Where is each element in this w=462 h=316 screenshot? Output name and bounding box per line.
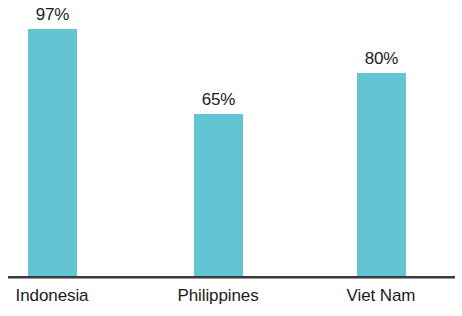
bar-group-1: 65% bbox=[194, 114, 243, 277]
bar-value-label: 80% bbox=[365, 49, 398, 69]
plot-area: 97% 65% 80% bbox=[0, 0, 462, 277]
bar[interactable] bbox=[357, 73, 406, 277]
category-label-indonesia: Indonesia bbox=[16, 286, 89, 306]
bar-chart: 97% 65% 80% Indonesia Philippines Viet N… bbox=[0, 0, 462, 316]
bar[interactable] bbox=[194, 114, 243, 277]
bar-group-2: 80% bbox=[357, 73, 406, 277]
bar-value-label: 97% bbox=[36, 5, 69, 25]
x-axis-line bbox=[8, 276, 455, 278]
bar-value-label: 65% bbox=[202, 90, 235, 110]
category-label-philippines: Philippines bbox=[177, 286, 258, 306]
bar[interactable] bbox=[28, 29, 77, 277]
bar-group-0: 97% bbox=[28, 29, 77, 277]
category-label-viet-nam: Viet Nam bbox=[347, 286, 416, 306]
